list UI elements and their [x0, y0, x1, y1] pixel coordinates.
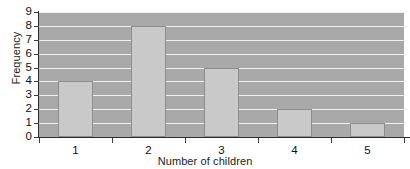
y-axis-tick-label: 2: [16, 103, 32, 115]
y-axis-tick-label: 7: [16, 34, 32, 46]
y-axis-tick-label: 3: [16, 90, 32, 102]
x-axis-tick-mark: [404, 138, 405, 143]
x-axis-tick-marks: [39, 138, 410, 143]
y-axis-tick-label: 5: [16, 62, 32, 74]
gridline: [39, 12, 404, 13]
bar: [204, 68, 239, 137]
y-axis-tick-labels: 0123456789: [16, 12, 32, 137]
y-axis-tick-label: 1: [16, 117, 32, 129]
x-axis-tick-mark: [185, 138, 186, 143]
gridline: [39, 40, 404, 41]
plot-area: [39, 12, 404, 137]
y-axis-tick-label: 9: [16, 6, 32, 18]
bar: [277, 109, 312, 137]
y-axis-tick-label: 8: [16, 20, 32, 32]
bar: [58, 81, 93, 137]
y-axis-tick-label: 4: [16, 76, 32, 88]
gridline: [39, 54, 404, 55]
x-axis-tick-mark: [258, 138, 259, 143]
bar-chart-figure: Frequency 0123456789 12345 Number of chi…: [0, 0, 410, 169]
bar: [350, 123, 385, 137]
x-axis-tick-mark: [112, 138, 113, 143]
x-axis-tick-mark: [39, 138, 40, 143]
gridline: [39, 26, 404, 27]
y-axis-tick-label: 0: [16, 131, 32, 143]
y-axis-tick-label: 6: [16, 48, 32, 60]
bar: [131, 26, 166, 137]
x-axis-tick-mark: [331, 138, 332, 143]
x-axis-title: Number of children: [0, 155, 410, 167]
